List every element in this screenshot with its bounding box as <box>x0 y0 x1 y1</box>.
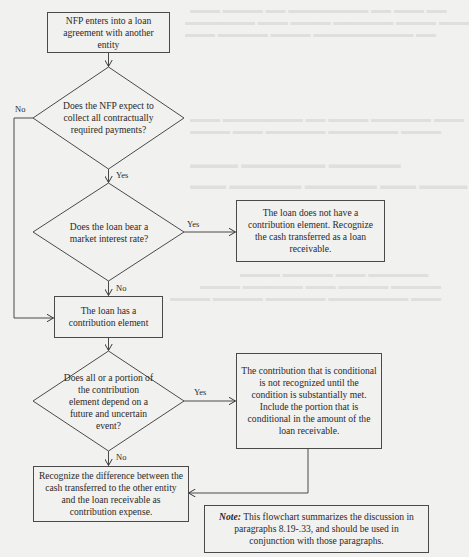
no-contribution-box: The loan does not have a contribution el… <box>236 200 385 262</box>
decision-conditional-yes-label: Yes <box>194 387 206 397</box>
note-box: Note: This flowchart summarizes the disc… <box>204 505 429 553</box>
note-box-content: Note: This flowchart summarizes the disc… <box>211 511 422 547</box>
decision-collect-text-wrap: Does the NFP expect to collect all contr… <box>58 95 159 141</box>
no-contribution-box-text: The loan does not have a contribution el… <box>242 207 379 255</box>
decision-conditional-text: Does all or a portion of the contributio… <box>63 372 155 432</box>
expense-box-text: Recognize the difference between the cas… <box>38 470 184 518</box>
note-text: This flowchart summarizes the discussion… <box>234 511 414 546</box>
has-contribution-box-text: The loan has a contribution element <box>63 305 154 329</box>
decision-collect-text: Does the NFP expect to collect all contr… <box>58 100 159 136</box>
conditional-box: The contribution that is conditional is … <box>236 353 382 449</box>
has-contribution-box: The loan has a contribution element <box>54 296 163 338</box>
decision-conditional-no-label: No <box>116 452 126 462</box>
decision-market-rate-text-wrap: Does the loan bear a market interest rat… <box>62 220 156 245</box>
expense-box: Recognize the difference between the cas… <box>33 466 189 522</box>
decision-collect-yes-label: Yes <box>116 170 128 180</box>
decision-market-rate-text: Does the loan bear a market interest rat… <box>62 221 156 245</box>
start-box-text: NFP enters into a loan agreement with an… <box>54 15 163 51</box>
note-label: Note: <box>219 511 241 522</box>
decision-collect-no-label: No <box>15 104 25 114</box>
conditional-box-text: The contribution that is conditional is … <box>241 365 377 437</box>
decision-conditional-text-wrap: Does all or a portion of the contributio… <box>56 364 161 440</box>
decision-market-rate-no-label: No <box>116 283 126 293</box>
start-box: NFP enters into a loan agreement with an… <box>47 12 170 53</box>
decision-market-rate-yes-label: Yes <box>187 219 199 229</box>
